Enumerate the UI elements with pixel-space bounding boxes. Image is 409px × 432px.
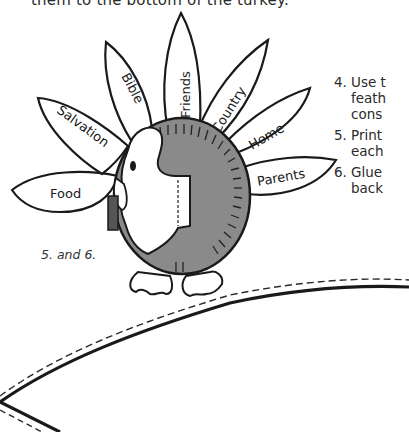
feather-label-food: Food (50, 186, 81, 201)
turkey-neck-shadow (108, 196, 118, 230)
feather-salvation (38, 98, 128, 174)
feather-pattern-outline (0, 279, 409, 432)
turkey-eye-icon (130, 161, 136, 171)
step-number: 4. (334, 74, 351, 122)
step-6: 6. Glue back (334, 164, 409, 196)
step-number: 5. (334, 127, 351, 159)
left-foot-icon (130, 272, 172, 294)
feather-label-friends: Friends (178, 71, 193, 118)
right-foot-icon (183, 272, 223, 296)
step-line: Glue (351, 164, 383, 180)
step-line: cons (351, 106, 386, 122)
pattern-fold-line (0, 279, 409, 396)
turkey-body (108, 118, 250, 274)
pattern-cut-line-lower (0, 402, 60, 432)
step-4: 4. Use t feath cons (334, 74, 409, 122)
pattern-cut-line (0, 286, 409, 402)
step-line: back (351, 180, 383, 196)
step-line: feath (351, 90, 386, 106)
instruction-steps: 4. Use t feath cons 5. Print each 6. Glu… (334, 74, 409, 201)
figure-caption: 5. and 6. (41, 247, 96, 262)
turkey-illustration: Food Salvation Bible Friends Country Hom… (0, 0, 409, 432)
step-line: each (351, 143, 384, 159)
step-line: Print (351, 127, 384, 143)
step-line: Use t (351, 74, 386, 90)
step-number: 6. (334, 164, 351, 196)
step-5: 5. Print each (334, 127, 409, 159)
turkey-feet (130, 272, 222, 296)
